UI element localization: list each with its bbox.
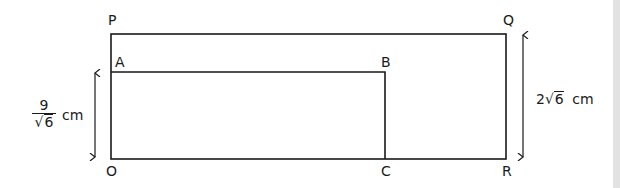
unit-label: cm	[572, 91, 593, 107]
label-o: O	[106, 164, 117, 178]
coefficient: 2	[536, 91, 545, 107]
fraction-numerator: 9	[38, 98, 51, 113]
rectangle-pqro	[111, 34, 506, 159]
left-dimension-label: 9 √6 cm	[32, 98, 83, 131]
fraction-denominator: √6	[35, 114, 54, 131]
label-r: R	[502, 164, 512, 178]
sqrt-symbol: √	[545, 91, 554, 107]
sqrt-symbol: √	[35, 114, 44, 130]
radicand: 6	[554, 91, 564, 106]
label-q: Q	[503, 13, 514, 27]
label-b: B	[381, 55, 391, 69]
unit-label: cm	[62, 107, 83, 123]
right-dimension-label: 2√6 cm	[536, 91, 594, 107]
rectangle-abco	[111, 72, 385, 159]
label-a: A	[115, 55, 125, 69]
label-c: C	[381, 164, 391, 178]
diagram-canvas	[0, 0, 620, 188]
label-p: P	[108, 13, 116, 27]
fraction: 9 √6	[32, 98, 56, 131]
radicand: 6	[44, 114, 54, 129]
